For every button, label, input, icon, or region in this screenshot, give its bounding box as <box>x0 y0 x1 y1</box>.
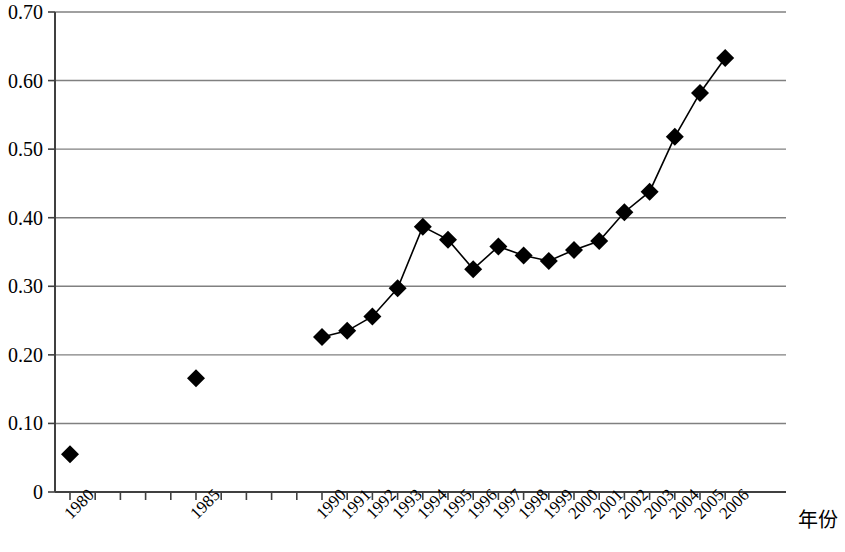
gridlines <box>55 12 786 423</box>
data-point-marker <box>61 445 79 463</box>
data-point-marker <box>338 322 356 340</box>
y-axis-tick-label: 0.50 <box>8 139 43 159</box>
data-point-marker <box>414 218 432 236</box>
data-point-marker <box>313 328 331 346</box>
series-line <box>700 58 725 93</box>
chart-plot-area <box>0 0 845 552</box>
data-point-marker <box>691 84 709 102</box>
y-axis-tick-label: 0.10 <box>8 413 43 433</box>
data-point-markers <box>61 49 734 463</box>
data-point-marker <box>515 246 533 264</box>
y-axis-tick-label: 0.60 <box>8 71 43 91</box>
x-axis-title: 年份 <box>798 510 838 530</box>
y-axis-tick-label: 0.70 <box>8 2 43 22</box>
y-axis-tick-label: 0.30 <box>8 276 43 296</box>
series-line <box>322 93 700 337</box>
y-axis-tick-label: 0.40 <box>8 208 43 228</box>
data-point-marker <box>716 49 734 67</box>
chart-container: 00.100.200.300.400.500.600.70 1980198519… <box>0 0 845 552</box>
data-point-marker <box>540 252 558 270</box>
data-point-marker <box>666 128 684 146</box>
data-point-marker <box>565 241 583 259</box>
data-series-lines <box>322 58 725 337</box>
y-axis-ticks <box>48 12 55 492</box>
y-axis-tick-label: 0 <box>33 482 43 502</box>
data-point-marker <box>187 369 205 387</box>
y-axis-tick-label: 0.20 <box>8 345 43 365</box>
data-point-marker <box>641 183 659 201</box>
